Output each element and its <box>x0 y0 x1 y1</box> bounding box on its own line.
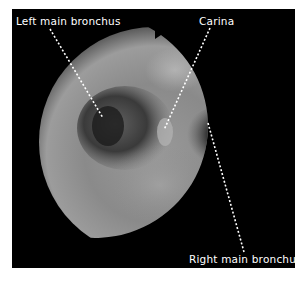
label-carina: Carina <box>199 15 234 27</box>
airway-lumen <box>39 27 282 257</box>
label-right-main-bronchus: Right main bronchus <box>189 253 302 265</box>
carina-ridge <box>157 118 173 146</box>
label-left-main-bronchus: Left main bronchus <box>16 15 121 27</box>
endoscopic-image-frame <box>12 9 295 268</box>
bronchoscopy-view <box>12 9 295 268</box>
right-main-bronchus-pointer <box>208 123 244 252</box>
